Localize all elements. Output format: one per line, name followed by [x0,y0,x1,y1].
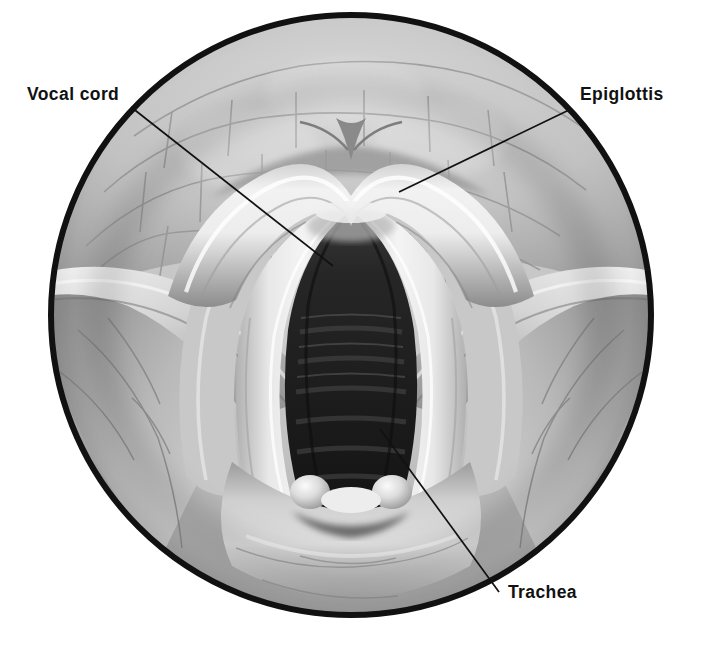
label-vocal-cord: Vocal cord [27,86,119,104]
label-epiglottis: Epiglottis [580,86,664,104]
label-trachea: Trachea [508,584,577,602]
laryngoscopy-figure: Vocal cord Epiglottis Trachea [0,0,701,647]
